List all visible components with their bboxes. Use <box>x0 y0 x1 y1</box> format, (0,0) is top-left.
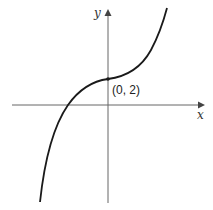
point-label: (0, 2) <box>112 83 140 97</box>
graph: (0, 2) x y <box>0 0 213 210</box>
y-intercept-point <box>106 77 110 81</box>
y-axis-arrow-icon <box>105 9 112 16</box>
y-axis-label: y <box>93 6 101 20</box>
x-axis-label: x <box>197 108 204 122</box>
